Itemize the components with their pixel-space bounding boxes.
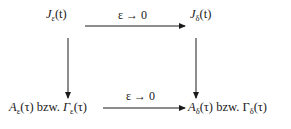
node-top-left: Jε(t) xyxy=(46,8,67,21)
argument: (t) xyxy=(55,7,67,21)
argument2: (τ) xyxy=(254,100,267,114)
node-bottom-left: Aε(τ) bzw. Γε(τ) xyxy=(9,101,87,114)
symbol2: Γ xyxy=(242,100,249,114)
argument: (t) xyxy=(200,7,212,21)
symbol: J xyxy=(190,7,196,21)
node-bottom-right: Aδ(τ) bzw. Γδ(τ) xyxy=(188,101,267,114)
subscript: δ xyxy=(196,106,200,116)
symbol: A xyxy=(9,100,17,114)
subscript: ε xyxy=(52,13,55,23)
connector: bzw. xyxy=(213,100,242,114)
bottom-arrow-label: ε → 0 xyxy=(126,90,155,102)
top-arrow-label: ε → 0 xyxy=(118,9,147,21)
argument2: (τ) xyxy=(74,100,87,114)
symbol: A xyxy=(188,100,196,114)
subscript2: δ xyxy=(250,106,254,116)
argument: (τ) xyxy=(200,100,213,114)
node-top-right: Jδ(t) xyxy=(190,8,211,21)
subscript: δ xyxy=(196,13,200,23)
argument: (τ) xyxy=(20,100,33,114)
subscript2: ε xyxy=(70,106,74,116)
connector: bzw. xyxy=(34,100,63,114)
symbol: J xyxy=(46,7,52,21)
subscript: ε xyxy=(17,106,21,116)
